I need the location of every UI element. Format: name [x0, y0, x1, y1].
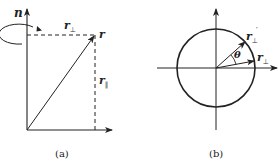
panel-b: θ r⊥ r⊥′ (b): [157, 9, 277, 159]
caption-a: (a): [55, 148, 69, 159]
r-parallel-label: r∥: [99, 74, 108, 89]
r-perp-label: r⊥: [64, 19, 76, 34]
caption-b: (b): [209, 148, 223, 159]
point-r-label: r: [99, 28, 106, 41]
rotation-arrow-icon: [0, 24, 42, 44]
r-perp-label-b: r⊥: [257, 51, 269, 66]
axis-n-label: n: [14, 6, 23, 20]
figure-canvas: n r⊥ r r∥ (a) θ r⊥ r⊥′ (b): [0, 0, 279, 167]
r-perp-rotated-label: r⊥′: [246, 27, 258, 45]
vector-r: [27, 36, 94, 130]
panel-a: n r⊥ r r∥ (a): [0, 6, 112, 159]
theta-label: θ: [234, 49, 241, 60]
